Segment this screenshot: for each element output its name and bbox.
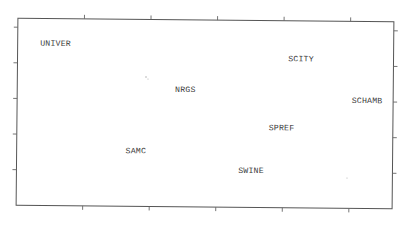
point-label-nrgs: NRGS xyxy=(175,85,196,94)
plot-canvas: UNIVERNRGSSCITYSCHAMBSPREFSAMCSWINE xyxy=(0,0,410,225)
point-label-swine: SWINE xyxy=(238,166,264,175)
plot-frame xyxy=(16,18,394,209)
point-label-spref: SPREF xyxy=(269,123,295,132)
point-label-samc: SAMC xyxy=(126,146,147,155)
scatter-plot: UNIVERNRGSSCITYSCHAMBSPREFSAMCSWINE xyxy=(0,0,410,225)
point-labels: UNIVERNRGSSCITYSCHAMBSPREFSAMCSWINE xyxy=(39,39,383,177)
point-label-scity: SCITY xyxy=(288,54,314,63)
point-label-schamb: SCHAMB xyxy=(352,96,383,105)
point-label-univer: UNIVER xyxy=(40,39,71,48)
